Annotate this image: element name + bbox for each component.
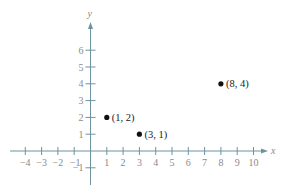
y-tick-label: 2 [79, 112, 84, 123]
x-tick-label: 4 [153, 157, 158, 168]
data-point [104, 115, 109, 120]
x-tick-label: 7 [202, 157, 207, 168]
x-tick-label: 9 [235, 157, 240, 168]
x-tick-label: −2 [53, 157, 64, 168]
y-tick-label: 4 [79, 78, 84, 89]
x-tick-label: 3 [137, 157, 142, 168]
y-tick-label: 1 [79, 129, 84, 140]
y-axis-label: y [87, 8, 93, 19]
x-tick-label: −3 [36, 157, 47, 168]
x-tick-label: 10 [249, 157, 259, 168]
y-tick-label: −1 [73, 162, 84, 173]
data-point-label: (8, 4) [226, 78, 249, 90]
coordinate-plane: xy −4−3−2−112345678910−1123456 (1, 2)(3,… [0, 0, 286, 187]
y-tick-label: 5 [79, 62, 84, 73]
x-axis-arrow-icon [261, 149, 268, 154]
y-tick-label: 3 [79, 95, 84, 106]
data-point-label: (3, 1) [144, 129, 167, 141]
x-tick-label: −4 [20, 157, 31, 168]
x-tick-label: 6 [186, 157, 191, 168]
x-axis-label: x [270, 145, 276, 156]
x-tick-label: 2 [121, 157, 126, 168]
y-axis-arrow-icon [88, 22, 93, 29]
data-point-label: (1, 2) [112, 112, 135, 124]
data-point [218, 81, 223, 86]
x-tick-label: 1 [104, 157, 109, 168]
ticks: −4−3−2−112345678910−1123456 [20, 45, 259, 174]
data-points: (1, 2)(3, 1)(8, 4) [104, 78, 249, 140]
y-tick-label: 6 [79, 45, 84, 56]
x-tick-label: 8 [218, 157, 223, 168]
x-tick-label: 5 [170, 157, 175, 168]
data-point [137, 132, 142, 137]
